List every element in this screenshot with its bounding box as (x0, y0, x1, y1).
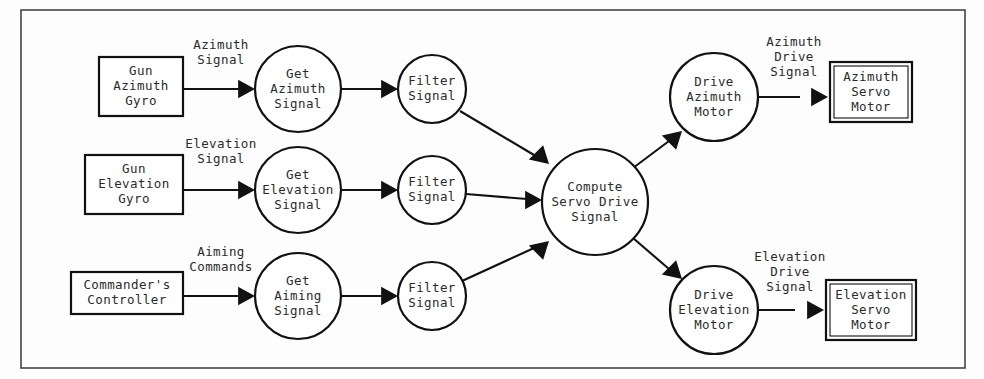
label-drive-azimuth-motor: DriveAzimuthMotor (686, 74, 741, 119)
label-get-elevation-signal-line: Get (286, 167, 310, 182)
label-azimuth-servo-motor-line: Motor (851, 99, 891, 114)
data-flow-diagram: GunAzimuthGyroGunElevationGyroCommander'… (0, 0, 984, 379)
arrow-head-azimuth-drive-signal (811, 88, 828, 107)
label-compute-servo-drive-signal-line: Signal (571, 209, 619, 224)
label-drive-elevation-motor-line: Elevation (678, 302, 749, 317)
label-gun-azimuth-gyro-line: Gyro (125, 93, 157, 108)
flow-label-azimuth-drive-signal: AzimuthDriveSignal (766, 34, 821, 79)
label-get-azimuth-signal-line: Signal (274, 96, 322, 111)
flow-label-elevation-drive-signal: ElevationDriveSignal (754, 249, 825, 294)
flow-label-azimuth-signal-line: Signal (197, 52, 245, 67)
flow-label-azimuth-drive-signal-line: Azimuth (766, 34, 821, 49)
label-filter-signal-aiming: FilterSignal (408, 280, 456, 310)
flow-label-azimuth-drive-signal-line: Drive (774, 49, 814, 64)
label-filter-signal-aiming-line: Signal (408, 295, 456, 310)
nodes-layer: GunAzimuthGyroGunElevationGyroCommander'… (71, 46, 916, 354)
label-get-aiming-signal-line: Signal (274, 303, 322, 318)
arrow-head-compute-to-drive-elevation (662, 260, 682, 279)
label-commanders-controller-line: Commander's (83, 277, 170, 292)
label-commanders-controller-line: Controller (87, 292, 166, 307)
arrow-head-aiming-commands (238, 287, 255, 306)
flow-label-elevation-signal: ElevationSignal (185, 136, 256, 166)
flow-label-elevation-drive-signal-line: Signal (766, 279, 814, 294)
label-gun-elevation-gyro-line: Gyro (118, 191, 150, 206)
label-filter-signal-azimuth: FilterSignal (408, 73, 456, 103)
label-get-elevation-signal-line: Signal (274, 197, 322, 212)
flow-label-aiming-commands-line: Aiming (197, 244, 245, 259)
label-elevation-servo-motor-line: Motor (851, 317, 891, 332)
arrow-head-elevation-signal (238, 181, 255, 200)
label-gun-elevation-gyro-line: Gun (122, 161, 146, 176)
label-azimuth-servo-motor-line: Servo (851, 84, 891, 99)
flow-label-azimuth-signal: AzimuthSignal (193, 37, 248, 67)
label-filter-signal-azimuth-line: Filter (408, 73, 456, 88)
label-drive-azimuth-motor-line: Azimuth (686, 89, 741, 104)
label-drive-azimuth-motor-line: Motor (694, 104, 734, 119)
flow-label-elevation-signal-line: Signal (197, 151, 245, 166)
flow-label-elevation-drive-signal-line: Drive (770, 264, 810, 279)
label-get-azimuth-signal-line: Azimuth (270, 81, 325, 96)
label-drive-azimuth-motor-line: Drive (694, 74, 734, 89)
label-elevation-servo-motor-line: Servo (851, 302, 891, 317)
arrow-head-compute-to-drive-azimuth (662, 131, 682, 150)
label-gun-azimuth-gyro-line: Gun (129, 63, 153, 78)
label-filter-signal-elevation-line: Signal (408, 189, 456, 204)
flow-label-aiming-commands: AimingCommands (189, 244, 252, 274)
label-gun-elevation-gyro-line: Elevation (98, 176, 169, 191)
label-azimuth-servo-motor-line: Azimuth (843, 69, 898, 84)
label-azimuth-servo-motor: AzimuthServoMotor (843, 69, 898, 114)
label-filter-signal-azimuth-line: Signal (408, 88, 456, 103)
label-filter-signal-elevation: FilterSignal (408, 174, 456, 204)
arrow-head-azimuth-to-filter (381, 80, 398, 99)
label-filter-signal-aiming-line: Filter (408, 280, 456, 295)
flow-label-elevation-drive-signal-line: Elevation (754, 249, 825, 264)
label-get-azimuth-signal-line: Get (286, 66, 310, 81)
label-drive-elevation-motor-line: Drive (694, 287, 734, 302)
arrow-head-filtered-aiming-to-compute (529, 241, 549, 260)
label-get-elevation-signal-line: Elevation (262, 182, 333, 197)
arrow-head-elevation-drive-signal (807, 301, 824, 320)
flow-line-compute-to-drive-azimuth (633, 141, 669, 168)
arrow-head-aiming-to-filter (381, 287, 398, 306)
diagram-canvas: GunAzimuthGyroGunElevationGyroCommander'… (0, 0, 984, 379)
flow-line-filtered-elevation-to-compute (466, 194, 527, 199)
label-get-aiming-signal-line: Aiming (274, 288, 322, 303)
label-elevation-servo-motor-line: Elevation (835, 287, 906, 302)
arrow-head-elevation-to-filter (381, 181, 398, 200)
label-filter-signal-elevation-line: Filter (408, 174, 456, 189)
arrow-head-azimuth-signal (238, 80, 255, 99)
label-drive-elevation-motor-line: Motor (694, 317, 734, 332)
flow-label-aiming-commands-line: Commands (189, 259, 252, 274)
flow-label-azimuth-drive-signal-line: Signal (770, 64, 818, 79)
flow-label-azimuth-signal-line: Azimuth (193, 37, 248, 52)
label-gun-azimuth-gyro-line: Azimuth (113, 78, 168, 93)
flow-line-filtered-azimuth-to-compute (460, 111, 534, 155)
flow-label-elevation-signal-line: Elevation (185, 136, 256, 151)
label-get-aiming-signal-line: Get (286, 273, 310, 288)
flow-line-compute-to-drive-elevation (633, 238, 669, 269)
label-commanders-controller: Commander'sController (83, 277, 170, 307)
label-compute-servo-drive-signal-line: Compute (567, 179, 622, 194)
flow-line-filtered-aiming-to-compute (462, 248, 534, 281)
label-compute-servo-drive-signal-line: Servo Drive (551, 194, 638, 209)
arrow-head-filtered-elevation-to-compute (525, 191, 542, 210)
